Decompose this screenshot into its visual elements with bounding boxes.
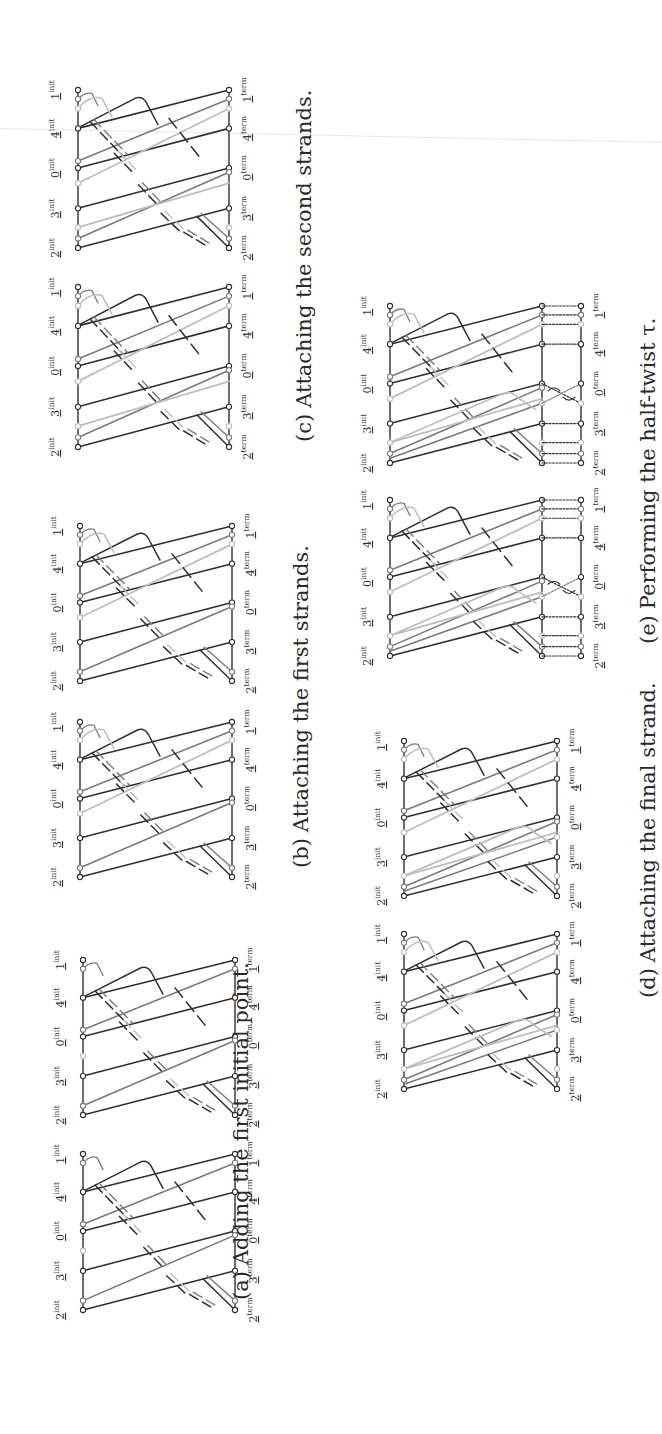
label-1-term: 1term	[239, 274, 254, 299]
init-point	[387, 381, 392, 386]
label-number: 1	[51, 529, 64, 536]
label-superscript: init	[359, 453, 368, 466]
over-strand	[83, 967, 163, 997]
label-superscript: init	[52, 1105, 61, 1118]
init-point	[77, 532, 82, 537]
label-number: 4	[241, 331, 254, 338]
label-number: 3	[361, 426, 374, 433]
label-number: 0	[49, 171, 62, 178]
label-number: 1	[241, 96, 254, 103]
label-number: 4	[569, 977, 582, 984]
label-superscript: term	[242, 747, 251, 765]
label-superscript: term	[567, 766, 576, 784]
label-3-term: 3term	[239, 394, 254, 419]
label-number: 1	[49, 93, 62, 100]
label-2-term: 2term	[242, 864, 257, 889]
init-point	[77, 669, 82, 674]
label-2-init: 2init	[359, 453, 374, 473]
label-superscript: init	[47, 80, 56, 93]
init-point	[80, 1027, 85, 1032]
init-point	[387, 516, 392, 521]
label-superscript: init	[373, 962, 382, 975]
label-2-init: 2init	[49, 671, 64, 691]
label-superscript: init	[52, 1027, 61, 1040]
label-number: 0	[375, 820, 388, 827]
init-point	[387, 633, 392, 638]
label-3-init: 3init	[359, 414, 374, 434]
label-number: 3	[54, 1274, 67, 1281]
label-1-term: 1term	[567, 728, 582, 753]
caption-tag: (a)	[229, 1271, 253, 1300]
label-0-term: 0term	[239, 353, 254, 378]
init-point	[80, 1307, 85, 1312]
label-superscript: term	[242, 513, 251, 531]
caption-e: (e)Performing the half-twist τ.	[636, 318, 660, 644]
label-superscript: term	[567, 998, 576, 1016]
label-number: 4	[49, 131, 62, 138]
term-point	[554, 884, 559, 889]
term-point	[226, 106, 231, 111]
label-superscript: term	[239, 116, 248, 134]
caption-tag: (b)	[289, 838, 313, 868]
label-superscript: init	[359, 414, 368, 427]
under-strand-segment	[406, 529, 439, 563]
init-point	[75, 245, 80, 250]
init-point	[77, 874, 82, 879]
init-point	[77, 615, 82, 620]
label-superscript: init	[373, 1079, 382, 1092]
strand	[390, 344, 542, 383]
label-2-term: 2term	[567, 883, 582, 908]
label-number: 0	[361, 580, 374, 587]
strand	[390, 538, 542, 577]
label-2-term: 2term	[567, 1076, 582, 1101]
label-number: 2	[247, 1316, 260, 1323]
label-superscript: init	[49, 593, 58, 606]
label-superscript: term	[242, 630, 251, 648]
label-number: 3	[241, 412, 254, 419]
strand	[83, 969, 235, 1030]
init-point	[77, 789, 82, 794]
label-number: 3	[244, 844, 257, 851]
label-4-init: 4init	[373, 769, 388, 789]
label-number: 0	[569, 1016, 582, 1023]
label-0-term: 0term	[591, 371, 606, 396]
label-superscript: term	[591, 332, 600, 350]
init-point	[387, 440, 392, 445]
label-number: 3	[375, 860, 388, 867]
init-point	[80, 957, 85, 962]
init-point	[75, 96, 80, 101]
label-1-init: 1init	[49, 712, 64, 732]
label-0-term: 0term	[567, 998, 582, 1023]
init-point	[75, 165, 80, 170]
init-point	[401, 1047, 406, 1052]
label-superscript: term	[239, 196, 248, 214]
term-point	[226, 424, 231, 429]
label-number: 2	[361, 659, 374, 666]
over-strand	[83, 1161, 163, 1191]
term-point	[554, 835, 559, 840]
strand	[404, 943, 557, 1004]
label-number: 4	[51, 762, 64, 769]
caption-text: Attaching the final strand.	[636, 682, 660, 962]
label-number: 4	[569, 784, 582, 791]
twist-hook	[548, 581, 560, 584]
label-0-init: 0init	[47, 356, 62, 376]
label-1-init: 1init	[359, 296, 374, 316]
label-number: 0	[361, 386, 374, 393]
label-superscript: init	[52, 1066, 61, 1079]
label-superscript: init	[52, 1300, 61, 1313]
term-point	[229, 835, 234, 840]
label-number: 2	[361, 466, 374, 473]
twisted-term-point	[578, 460, 583, 465]
label-2-init: 2init	[359, 646, 374, 666]
term-point	[554, 854, 559, 859]
label-superscript: init	[49, 867, 58, 880]
label-number: 0	[241, 372, 254, 379]
label-number: 3	[569, 863, 582, 870]
over-strand	[390, 507, 470, 537]
label-superscript: init	[47, 199, 56, 212]
strand	[78, 366, 229, 407]
init-point	[77, 678, 82, 683]
diagram-e-2: 2init2term3init3term0init0term4init4term…	[359, 487, 606, 668]
init-point	[401, 1001, 406, 1006]
